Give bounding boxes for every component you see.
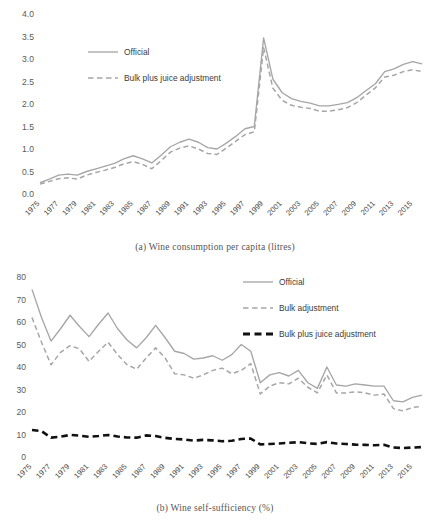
y-axis-tick-label: 2.0 [22, 99, 34, 109]
x-axis-tick-label: 1995 [205, 462, 223, 480]
x-axis-tick-label: 1985 [116, 199, 134, 217]
series-line-official [32, 289, 422, 402]
x-axis-tick-label: 1975 [15, 462, 33, 480]
series-line-bulk-plus-juice-adjustment [40, 48, 422, 184]
x-axis-tick-label: 1981 [79, 199, 97, 217]
legend-label: Official [124, 47, 150, 57]
y-axis-tick-label: 60 [16, 317, 26, 327]
wine-self-sufficiency-chart: 0102030405060708019751977197919811983198… [0, 265, 430, 503]
x-axis-tick-label: 2011 [359, 199, 377, 217]
x-axis-tick-label: 2007 [319, 462, 337, 480]
x-axis-tick-label: 1981 [72, 462, 90, 480]
x-axis-tick-label: 1997 [228, 199, 246, 217]
x-axis-tick-label: 2009 [340, 199, 358, 217]
x-axis-tick-label: 2013 [377, 199, 395, 217]
figure-caption-a: (a) Wine consumption per capita (litres) [0, 242, 430, 252]
wine-consumption-chart: 0.00.51.01.52.02.53.03.54.01975197719791… [0, 0, 430, 242]
y-axis-tick-label: 20 [16, 407, 26, 417]
y-axis-tick-label: 50 [16, 340, 26, 350]
x-axis-tick-label: 1997 [224, 462, 242, 480]
y-axis-tick-label: 3.0 [22, 54, 34, 64]
x-axis-tick-label: 1979 [60, 199, 78, 217]
y-axis-tick-label: 30 [16, 385, 26, 395]
x-axis-tick-label: 2007 [321, 199, 339, 217]
x-axis-tick-label: 1977 [34, 462, 52, 480]
legend-item: Bulk plus juice adjustment [243, 329, 377, 339]
legend-label: Bulk plus juice adjustment [279, 329, 377, 339]
x-axis-tick-label: 1999 [247, 199, 265, 217]
y-axis-tick-label: 0.0 [22, 189, 34, 199]
x-axis-tick-label: 2013 [377, 462, 395, 480]
x-axis-tick-label: 1989 [154, 199, 172, 217]
x-axis-tick-label: 1983 [91, 462, 109, 480]
y-axis-tick-label: 0 [21, 452, 26, 462]
x-axis-tick-label: 1983 [98, 199, 116, 217]
x-axis-tick-label: 2005 [300, 462, 318, 480]
x-axis-tick-label: 2003 [281, 462, 299, 480]
y-axis-tick-label: 10 [16, 430, 26, 440]
legend-label: Official [279, 277, 305, 287]
x-axis-tick-label: 2001 [265, 199, 283, 217]
x-axis-tick-label: 1991 [167, 462, 185, 480]
y-axis-tick-label: 4.0 [22, 9, 34, 19]
x-axis-tick-label: 1995 [209, 199, 227, 217]
x-axis-tick-label: 2001 [262, 462, 280, 480]
x-axis-tick-label: 2009 [339, 462, 357, 480]
x-axis-tick-label: 1985 [110, 462, 128, 480]
x-axis-tick-label: 1993 [191, 199, 209, 217]
x-axis-tick-label: 1977 [42, 199, 60, 217]
x-axis-tick-label: 1999 [243, 462, 261, 480]
figure-panel-b: 0102030405060708019751977197919811983198… [0, 265, 430, 527]
x-axis-tick-label: 1989 [148, 462, 166, 480]
legend-item: Official [88, 47, 150, 57]
x-axis-tick-label: 1975 [23, 199, 41, 217]
y-axis-tick-label: 2.5 [22, 77, 34, 87]
legend-item: Official [243, 277, 305, 287]
y-axis-tick-label: 3.5 [22, 32, 34, 42]
legend-item: Bulk plus juice adjustment [88, 73, 222, 83]
x-axis-tick-label: 2003 [284, 199, 302, 217]
x-axis-tick-label: 2015 [396, 199, 414, 217]
y-axis-tick-label: 0.5 [22, 167, 34, 177]
x-axis-tick-label: 2005 [303, 199, 321, 217]
y-axis-tick-label: 1.5 [22, 122, 34, 132]
y-axis-tick-label: 1.0 [22, 144, 34, 154]
x-axis-tick-label: 1987 [135, 199, 153, 217]
x-axis-tick-label: 1993 [186, 462, 204, 480]
series-line-bulk-plus-juice-adjustment [32, 430, 422, 448]
series-line-official [40, 38, 422, 183]
x-axis-tick-label: 1987 [129, 462, 147, 480]
legend-label: Bulk plus juice adjustment [124, 73, 222, 83]
y-axis-tick-label: 70 [16, 295, 26, 305]
figure-panel-a: 0.00.51.01.52.02.53.03.54.01975197719791… [0, 0, 430, 265]
figure-caption-b: (b) Wine self-sufficiency (%) [0, 503, 430, 513]
y-axis-tick-label: 40 [16, 362, 26, 372]
legend-item: Bulk adjustment [243, 303, 339, 313]
x-axis-tick-label: 2015 [396, 462, 414, 480]
legend-label: Bulk adjustment [279, 303, 339, 313]
x-axis-tick-label: 1991 [172, 199, 190, 217]
y-axis-tick-label: 80 [16, 272, 26, 282]
x-axis-tick-label: 2011 [358, 462, 376, 480]
x-axis-tick-label: 1979 [53, 462, 71, 480]
